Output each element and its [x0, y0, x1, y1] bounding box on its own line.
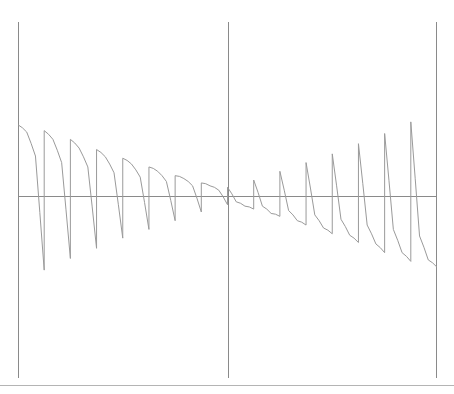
plot-figure [0, 0, 454, 394]
plot-canvas [0, 0, 454, 394]
